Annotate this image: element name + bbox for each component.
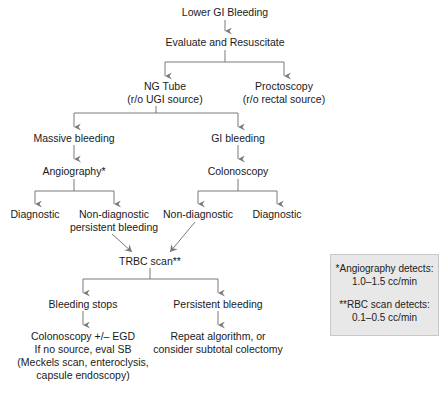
node-proctoscopy: Proctoscopy (r/o rectal source) [243,80,325,106]
node-stops-outcome-line3: (Meckels scan, enteroclysis, [17,356,148,369]
legend-box: *Angiography detects: 1.0–1.5 cc/min **R… [330,254,439,336]
node-persistent-outcome-line1: Repeat algorithm, or [153,330,283,343]
node-lower-gi-bleeding: Lower GI Bleeding [182,6,268,19]
node-evaluate-resuscitate: Evaluate and Resuscitate [165,36,284,49]
node-ng-tube: NG Tube (r/o UGI source) [127,80,202,106]
node-ng-tube-title: NG Tube [127,80,202,93]
node-proctoscopy-title: Proctoscopy [243,80,325,93]
flowchart-canvas: Lower GI Bleeding Evaluate and Resuscita… [0,0,446,394]
node-stops-outcome-line1: Colonoscopy +/– EGD [17,330,148,343]
node-bleeding-stops: Bleeding stops [49,298,118,311]
node-trbc-scan: TRBC scan** [119,255,181,268]
legend-angiography-label: *Angiography detects: [331,262,438,275]
node-colo-nondiagnostic: Non-diagnostic [163,208,233,221]
node-ng-tube-note: (r/o UGI source) [127,93,202,106]
node-persistent-outcome: Repeat algorithm, or consider subtotal c… [153,330,283,356]
node-persistent-bleeding: Persistent bleeding [173,298,262,311]
node-angio-nondiagnostic: Non-diagnostic persistent bleeding [70,208,158,234]
legend-angiography-rate: 1.0–1.5 cc/min [331,275,438,288]
node-colonoscopy: Colonoscopy [208,165,269,178]
legend-rbc-scan-label: **RBC scan detects: [331,298,438,311]
node-stops-outcome-line4: capsule endoscopy) [17,369,148,382]
node-massive-bleeding: Massive bleeding [33,132,114,145]
node-stops-outcome-line2: If no source, eval SB [17,343,148,356]
node-stops-outcome: Colonoscopy +/– EGD If no source, eval S… [17,330,148,382]
legend-angiography: *Angiography detects: 1.0–1.5 cc/min [331,262,438,288]
legend-rbc-scan: **RBC scan detects: 0.1–0.5 cc/min [331,298,438,324]
node-angiography: Angiography* [42,165,105,178]
node-colo-diagnostic: Diagnostic [252,208,301,221]
node-angio-nondiagnostic-line2: persistent bleeding [70,221,158,234]
node-persistent-outcome-line2: consider subtotal colectomy [153,343,283,356]
legend-rbc-scan-rate: 0.1–0.5 cc/min [331,311,438,324]
node-angio-nondiagnostic-line1: Non-diagnostic [70,208,158,221]
node-proctoscopy-note: (r/o rectal source) [243,93,325,106]
node-gi-bleeding: GI bleeding [211,132,265,145]
node-angio-diagnostic: Diagnostic [10,208,59,221]
